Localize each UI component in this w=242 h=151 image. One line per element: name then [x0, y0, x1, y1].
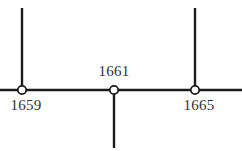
event-marker-1659 — [18, 86, 26, 94]
event-marker-1661 — [110, 86, 118, 94]
timeline-figure: 1659 1661 1665 — [0, 0, 242, 151]
event-marker-1665 — [191, 86, 199, 94]
event-label-1665: 1665 — [183, 98, 214, 113]
event-label-1661: 1661 — [98, 64, 129, 79]
event-label-1659: 1659 — [10, 98, 41, 113]
